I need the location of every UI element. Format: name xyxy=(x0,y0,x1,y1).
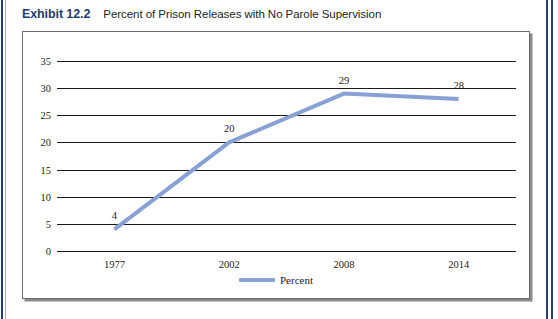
chart-legend: Percent xyxy=(23,274,529,286)
x-axis-tick-label: 2008 xyxy=(333,259,354,270)
y-axis-tick-label: 30 xyxy=(41,83,52,94)
y-axis-tick-label: 15 xyxy=(41,164,52,175)
exhibit-title: Percent of Prison Releases with No Parol… xyxy=(103,8,381,20)
plot-area: 05101520253035 1977200220082014 4202928 xyxy=(57,61,516,251)
page-rule-left-inner xyxy=(5,0,6,319)
exhibit-number: Exhibit 12.2 xyxy=(22,7,90,21)
data-point-label: 29 xyxy=(339,75,350,86)
x-axis-tick-label: 2002 xyxy=(219,259,240,270)
x-axis-line xyxy=(57,251,516,252)
y-axis-tick-label: 0 xyxy=(46,246,51,257)
data-point-label: 4 xyxy=(112,210,117,221)
data-point-label: 28 xyxy=(453,80,464,91)
y-axis-tick-label: 20 xyxy=(41,137,52,148)
legend-label-percent: Percent xyxy=(280,274,313,286)
page-rule-right-outer xyxy=(551,0,553,319)
y-axis-tick-label: 5 xyxy=(46,218,51,229)
data-point-label: 20 xyxy=(224,123,235,134)
page-rule-right-inner xyxy=(546,0,548,319)
y-axis-tick-label: 10 xyxy=(41,191,52,202)
y-axis-tick-label: 25 xyxy=(41,110,52,121)
x-axis-tick-label: 2014 xyxy=(448,259,469,270)
x-axis-tick-label: 1977 xyxy=(104,259,125,270)
chart-frame: 05101520253035 1977200220082014 4202928 … xyxy=(22,31,530,299)
exhibit-caption: Exhibit 12.2 Percent of Prison Releases … xyxy=(22,5,381,22)
y-axis-tick-label: 35 xyxy=(41,56,52,67)
legend-swatch-percent xyxy=(239,278,275,282)
series-line-percent xyxy=(114,94,458,230)
series-percent-line xyxy=(57,61,516,251)
page-rule-left-outer xyxy=(1,0,3,319)
